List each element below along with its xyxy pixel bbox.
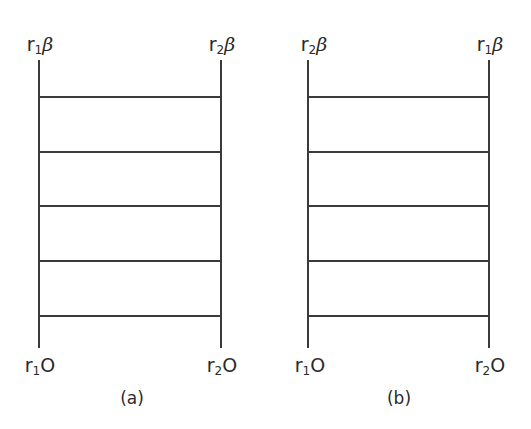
left-rail xyxy=(38,60,40,348)
bottom-right-label: r2O xyxy=(207,355,237,381)
bottom-left-label: r1O xyxy=(295,355,325,381)
right-rail xyxy=(220,60,222,348)
rung xyxy=(308,205,489,207)
bottom-left-label: r1O xyxy=(25,355,55,381)
left-rail xyxy=(307,60,309,348)
rung xyxy=(39,151,221,153)
caption-a: (a) xyxy=(120,388,144,408)
bottom-right-label: r2O xyxy=(475,355,505,381)
right-rail xyxy=(488,60,490,348)
rung xyxy=(308,96,489,98)
caption-b: (b) xyxy=(387,388,411,408)
top-right-label: r1β xyxy=(477,34,503,60)
rung xyxy=(39,205,221,207)
rung xyxy=(39,96,221,98)
rung xyxy=(308,260,489,262)
top-right-label: r2β xyxy=(209,34,235,60)
rung xyxy=(308,315,489,317)
rung xyxy=(308,151,489,153)
rung xyxy=(39,315,221,317)
rung xyxy=(39,260,221,262)
top-left-label: r2β xyxy=(301,34,327,60)
top-left-label: r1β xyxy=(27,34,53,60)
